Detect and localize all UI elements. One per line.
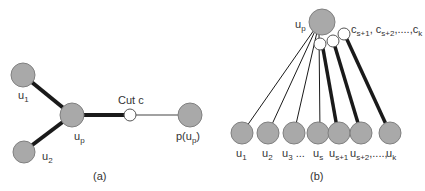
- node-u1: [11, 63, 35, 87]
- edge-root-us1: [322, 43, 338, 133]
- node-child-u3: [283, 122, 305, 144]
- node-child-us: [307, 122, 329, 144]
- diagram-canvas: u1 u2 up Cut c p(up) (a) up cs+1, cs+2,.…: [0, 0, 425, 191]
- edge-root-u1: [242, 30, 314, 133]
- node-child-us1: [328, 122, 350, 144]
- label-u1: u1: [18, 89, 29, 104]
- cut-cs2: [327, 35, 339, 47]
- cut-cs1: [314, 38, 326, 50]
- node-parent: [178, 103, 202, 127]
- label-parent: p(up): [176, 130, 200, 145]
- caption-a: (a): [93, 170, 106, 182]
- node-child-uk: [379, 122, 401, 144]
- label-child-us2: us+2,....,: [350, 147, 388, 162]
- label-child-uk: uk: [386, 147, 397, 162]
- label-child-u2: u2: [262, 147, 273, 162]
- edge-root-uk: [344, 33, 390, 133]
- cut-ck: [338, 28, 350, 40]
- caption-b: (b): [310, 170, 323, 182]
- node-root-up: [309, 9, 335, 35]
- label-child-u3: u3 ...: [282, 147, 305, 162]
- edge-root-u3: [294, 32, 317, 133]
- node-child-u1: [231, 122, 253, 144]
- node-up: [60, 103, 84, 127]
- panel-b-children: [231, 122, 401, 144]
- label-up: up: [74, 130, 85, 145]
- label-u2: u2: [42, 150, 53, 165]
- node-child-us2: [350, 122, 372, 144]
- node-child-u2: [257, 122, 279, 144]
- label-child-us: us: [313, 147, 323, 162]
- label-child-u1: u1: [236, 147, 247, 162]
- node-u2: [13, 141, 35, 163]
- cut-c-node: [124, 109, 136, 121]
- label-cut-c: Cut c: [118, 94, 144, 106]
- label-child-us1: us+1: [329, 147, 349, 162]
- panel-a-edges: [23, 75, 190, 152]
- edge-root-u2: [268, 31, 315, 133]
- label-cuts: cs+1, cs+2,....,ck: [351, 23, 423, 38]
- label-root-up: up: [295, 18, 306, 33]
